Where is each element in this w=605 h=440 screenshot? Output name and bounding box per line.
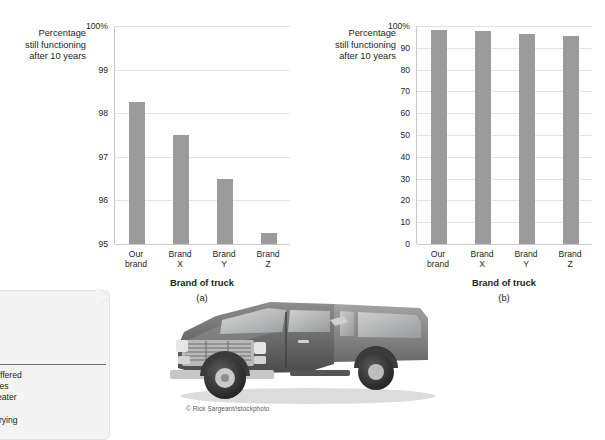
- chart-b-bar: [519, 34, 535, 244]
- headlight-upper-left: [176, 340, 188, 352]
- door-window: [288, 310, 330, 332]
- callout-line-2: and names: [0, 381, 110, 392]
- chart-a-y-tick-label: 98: [68, 108, 108, 118]
- headlight-upper-right: [254, 342, 266, 354]
- pickup-truck-photo: [158, 284, 448, 409]
- chart-a-bar: [261, 233, 277, 244]
- callout-line-4: hat does: [0, 404, 110, 415]
- chart-b-y-tick-label: 100%: [370, 21, 410, 31]
- callout-divider: [0, 364, 106, 365]
- chart-b-y-tick-label: 80: [370, 65, 410, 75]
- chart-b-bar: [563, 36, 579, 244]
- callout-text: acturer offered and names much greater h…: [0, 370, 110, 426]
- chart-a-gridline: [115, 26, 290, 27]
- chart-b-bar: [475, 31, 491, 244]
- chart-b-bar: [431, 30, 447, 244]
- callout-line-1: acturer offered: [0, 370, 110, 381]
- chart-b-y-tick-label: 70: [370, 86, 410, 96]
- chart-b-y-tick-label: 20: [370, 195, 410, 205]
- chart-b-x-tick-label: Our brand: [416, 249, 460, 270]
- chart-b-y-tick-label: 0: [370, 239, 410, 249]
- chart-b-gridline: [417, 244, 592, 245]
- chart-a-plot-area: 9596979899100%: [114, 26, 290, 244]
- chart-b-gridline: [417, 26, 592, 27]
- chart-b-x-tick-label: Brand X: [460, 249, 504, 270]
- chart-a-y-axis-label: Percentage still functioning after 10 ye…: [2, 28, 86, 63]
- rear-wheel-rim: [368, 364, 384, 380]
- chart-a-x-tick-label: Brand X: [158, 249, 202, 270]
- chart-b-plot-area: 0102030405060708090100%: [416, 26, 592, 244]
- chart-b-y-tick-label: 90: [370, 43, 410, 53]
- chart-b-y-tick-label: 50: [370, 130, 410, 140]
- chart-a-bar: [217, 179, 233, 244]
- chart-b-y-tick-label: 30: [370, 174, 410, 184]
- chart-a-y-tick-label: 100%: [68, 21, 108, 31]
- chart-b-x-tick-label: Brand Z: [548, 249, 592, 270]
- chart-a-bar: [173, 135, 189, 244]
- headlight-lower-left: [178, 356, 190, 364]
- chart-a-x-tick-label: Our brand: [114, 249, 158, 270]
- callout-pointer: [96, 288, 110, 306]
- running-board: [290, 370, 350, 376]
- chart-b-y-tick-label: 60: [370, 108, 410, 118]
- chart-a-y-tick-label: 99: [68, 65, 108, 75]
- chart-b-x-tick-label: Brand Y: [504, 249, 548, 270]
- chart-a-gridline: [115, 70, 290, 71]
- headlight-lower-right: [254, 356, 266, 364]
- chart-a-y-tick-label: 95: [68, 239, 108, 249]
- chart-a-y-tick-label: 96: [68, 195, 108, 205]
- chart-a-x-tick-label: Brand Z: [246, 249, 290, 270]
- camper-window: [358, 312, 421, 338]
- door-handle: [298, 340, 309, 343]
- chart-a-gridline: [115, 244, 290, 245]
- photo-credit: © Rick Sargeant/istockphoto: [186, 405, 269, 412]
- chart-a-y-tick-label: 97: [68, 152, 108, 162]
- chart-a-bar: [129, 102, 145, 244]
- chart-b-y-tick-label: 40: [370, 152, 410, 162]
- chart-a-x-tick-label: Brand Y: [202, 249, 246, 270]
- front-hub: [221, 374, 229, 382]
- callout-line-3: much greater: [0, 392, 110, 403]
- callout-line-5: ut the varying: [0, 415, 110, 426]
- chart-b-y-tick-label: 10: [370, 217, 410, 227]
